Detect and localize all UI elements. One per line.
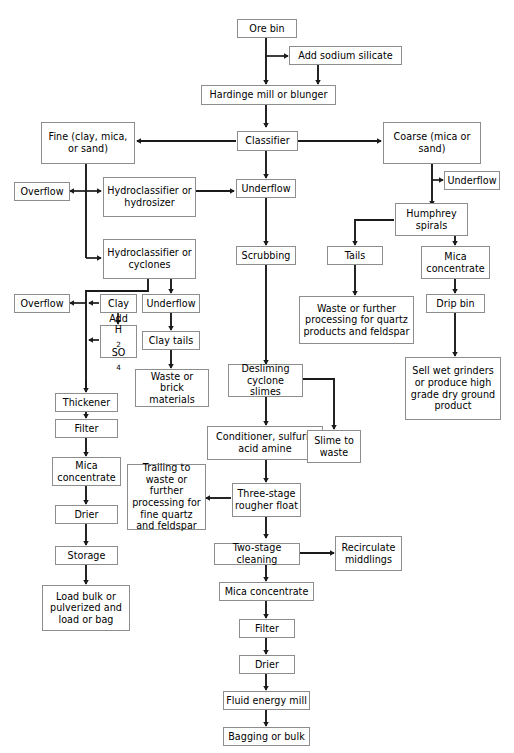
node-tails[interactable]: Tails xyxy=(327,246,383,265)
node-add-sodium-silicate-label: Add sodium silicate xyxy=(292,50,399,62)
node-clay[interactable]: Clay xyxy=(100,294,137,313)
node-scrubbing[interactable]: Scrubbing xyxy=(236,246,296,265)
node-three-stage-rougher-float[interactable]: Three-stage rougher float xyxy=(232,483,301,517)
node-fluid-energy-mill-label: Fluid energy mill xyxy=(226,695,307,707)
node-waste-or-brick-label: Waste or brick materials xyxy=(138,371,206,406)
node-clay-label: Clay xyxy=(103,298,134,310)
node-clay-tails[interactable]: Clay tails xyxy=(142,331,200,350)
node-add-h2so4-line1: Add xyxy=(103,313,134,325)
node-underflow-center[interactable]: Underflow xyxy=(236,179,296,198)
node-hydroclassifier-cyclones[interactable]: Hydroclassifier or cyclones xyxy=(103,239,196,279)
node-drier-left-label: Drier xyxy=(58,509,115,521)
node-recirculate-middlings-label: Recirculate middlings xyxy=(338,542,399,565)
node-load-bulk[interactable]: Load bulk or pulverized and load or bag xyxy=(42,585,130,631)
flowchart-diagram: Ore bin Add sodium silicate Hardinge mil… xyxy=(0,0,514,753)
node-ore-bin-label: Ore bin xyxy=(240,23,294,35)
node-add-h2so4[interactable]: Add H2SO4 xyxy=(100,325,137,358)
node-humphrey-spirals[interactable]: Humphrey spirals xyxy=(395,203,468,236)
node-mica-concentrate-left-label: Mica concentrate xyxy=(55,460,118,483)
node-drip-bin-label: Drip bin xyxy=(429,298,482,310)
h-symbol: H xyxy=(103,324,134,336)
node-storage-label: Storage xyxy=(58,550,115,562)
node-trailing-to-waste[interactable]: Trailing to waste or further processing … xyxy=(127,464,206,530)
node-desliming-cyclone-slimes-label: Desliming cyclone slimes xyxy=(231,363,300,398)
node-hydroclassifier-hydrosizer-label: Hydroclassifier or hydrosizer xyxy=(106,185,193,208)
node-trailing-to-waste-label: Trailing to waste or further processing … xyxy=(130,462,203,532)
node-underflow-left[interactable]: Underflow xyxy=(142,294,200,313)
node-fine-label: Fine (clay, mica, or sand) xyxy=(44,131,132,154)
node-mica-concentrate-bottom[interactable]: Mica concentrate xyxy=(219,582,314,601)
node-desliming-cyclone-slimes[interactable]: Desliming cyclone slimes xyxy=(228,364,303,397)
node-tails-label: Tails xyxy=(330,250,380,262)
node-recirculate-middlings[interactable]: Recirculate middlings xyxy=(335,536,402,571)
node-bagging-or-bulk[interactable]: Bagging or bulk xyxy=(223,727,310,746)
node-hydroclassifier-hydrosizer[interactable]: Hydroclassifier or hydrosizer xyxy=(103,177,196,217)
node-sell-wet-grinders[interactable]: Sell wet grinders or produce high grade … xyxy=(405,357,501,420)
node-add-sodium-silicate[interactable]: Add sodium silicate xyxy=(289,46,402,65)
node-humphrey-spirals-label: Humphrey spirals xyxy=(398,208,465,231)
node-drip-bin[interactable]: Drip bin xyxy=(426,294,485,313)
so-symbol: SO xyxy=(103,347,134,359)
node-load-bulk-label: Load bulk or pulverized and load or bag xyxy=(45,591,127,626)
node-waste-quartz-feldspar[interactable]: Waste or further processing for quartz p… xyxy=(299,296,414,344)
node-hydroclassifier-cyclones-label: Hydroclassifier or cyclones xyxy=(106,247,193,270)
node-add-h2so4-line2: H2SO4 xyxy=(103,324,134,370)
node-filter-bottom-label: Filter xyxy=(242,623,292,635)
node-overflow-2-label: Overflow xyxy=(17,298,67,310)
node-overflow-2[interactable]: Overflow xyxy=(14,294,70,313)
node-waste-quartz-feldspar-label: Waste or further processing for quartz p… xyxy=(302,303,411,338)
node-underflow-left-label: Underflow xyxy=(145,298,197,310)
node-overflow-1[interactable]: Overflow xyxy=(14,182,70,201)
node-scrubbing-label: Scrubbing xyxy=(239,250,293,262)
node-classifier[interactable]: Classifier xyxy=(237,131,298,151)
node-classifier-label: Classifier xyxy=(240,135,295,147)
node-bagging-or-bulk-label: Bagging or bulk xyxy=(226,731,307,743)
node-mica-concentrate-right[interactable]: Mica concentrate xyxy=(421,246,490,279)
node-conditioner-label: Conditioner, sulfuric acid amine xyxy=(210,431,320,454)
node-waste-or-brick[interactable]: Waste or brick materials xyxy=(135,369,209,407)
node-filter-left[interactable]: Filter xyxy=(55,419,118,438)
node-underflow-right-label: Underflow xyxy=(447,175,497,187)
node-underflow-right[interactable]: Underflow xyxy=(444,171,500,190)
node-hardinge-mill[interactable]: Hardinge mill or blunger xyxy=(201,85,336,105)
node-three-stage-rougher-float-label: Three-stage rougher float xyxy=(235,488,298,511)
node-slime-to-waste-label: Slime to waste xyxy=(310,435,358,458)
node-hardinge-mill-label: Hardinge mill or blunger xyxy=(204,89,333,101)
node-clay-tails-label: Clay tails xyxy=(145,335,197,347)
node-drier-bottom-label: Drier xyxy=(242,659,292,671)
node-two-stage-cleaning[interactable]: Two-stage cleaning xyxy=(214,543,300,565)
node-drier-left[interactable]: Drier xyxy=(55,505,118,524)
node-ore-bin[interactable]: Ore bin xyxy=(237,19,297,38)
node-fine[interactable]: Fine (clay, mica, or sand) xyxy=(41,122,135,164)
node-mica-concentrate-right-label: Mica concentrate xyxy=(424,251,487,274)
node-slime-to-waste[interactable]: Slime to waste xyxy=(307,430,361,463)
so-subscript: 4 xyxy=(116,363,121,372)
node-fluid-energy-mill[interactable]: Fluid energy mill xyxy=(223,691,310,710)
node-add-h2so4-label: Add H2SO4 xyxy=(103,313,134,371)
node-coarse[interactable]: Coarse (mica or sand) xyxy=(383,122,481,164)
node-filter-bottom[interactable]: Filter xyxy=(239,619,295,638)
node-filter-left-label: Filter xyxy=(58,423,115,435)
node-overflow-1-label: Overflow xyxy=(17,186,67,198)
node-conditioner[interactable]: Conditioner, sulfuric acid amine xyxy=(207,426,323,460)
node-thickener[interactable]: Thickener xyxy=(55,393,118,412)
node-coarse-label: Coarse (mica or sand) xyxy=(386,131,478,154)
node-thickener-label: Thickener xyxy=(58,397,115,409)
node-mica-concentrate-bottom-label: Mica concentrate xyxy=(222,586,311,598)
h-subscript: 2 xyxy=(116,340,121,349)
node-mica-concentrate-left[interactable]: Mica concentrate xyxy=(52,457,121,486)
node-two-stage-cleaning-label: Two-stage cleaning xyxy=(217,542,297,565)
node-sell-wet-grinders-label: Sell wet grinders or produce high grade … xyxy=(408,365,498,411)
node-underflow-center-label: Underflow xyxy=(239,183,293,195)
node-drier-bottom[interactable]: Drier xyxy=(239,655,295,674)
node-storage[interactable]: Storage xyxy=(55,546,118,565)
